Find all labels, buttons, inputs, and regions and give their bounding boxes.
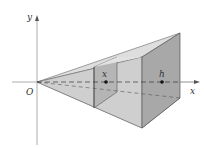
y-axis-label: y — [26, 12, 33, 22]
end-point — [160, 80, 164, 84]
slice-point — [104, 80, 108, 84]
x-axis-arrow-icon — [194, 80, 200, 84]
pyramid-diagram: y x O x h — [0, 0, 204, 148]
origin-label: O — [26, 87, 34, 97]
x-axis-label: x — [190, 86, 195, 96]
end-point-label: h — [159, 69, 165, 79]
diagram-canvas: y x O x h — [0, 0, 204, 148]
slice-point-label: x — [102, 69, 107, 79]
y-axis-arrow-icon — [35, 15, 39, 21]
